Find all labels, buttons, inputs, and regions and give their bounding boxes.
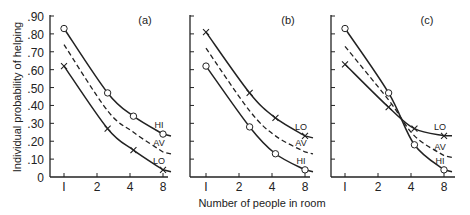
x-tick-label: 4	[269, 180, 276, 194]
chart-figure: Individual probability of helping 0.10.2…	[0, 0, 470, 215]
cross-marker-icon	[342, 61, 348, 67]
series-label-hi: HI	[155, 120, 164, 130]
y-tick-label: .40	[27, 99, 44, 113]
y-axis-label: Individual probability of helping	[11, 22, 23, 172]
circle-marker-icon	[61, 25, 67, 31]
y-tick-label: .50	[27, 82, 44, 96]
circle-marker-icon	[411, 142, 417, 148]
x-tick-label: 8	[302, 180, 309, 194]
x-tick-label: 8	[441, 180, 448, 194]
x-tick-label: 2	[94, 180, 101, 194]
x-axis-label: Number of people in room	[198, 197, 325, 209]
circle-marker-icon	[130, 113, 136, 119]
x-tick-label: 4	[127, 180, 134, 194]
cross-marker-icon	[105, 126, 111, 132]
cross-marker-icon	[386, 104, 392, 110]
series-label-lo: LO	[295, 122, 307, 132]
x-tick-label: I	[62, 180, 65, 194]
circle-marker-icon	[104, 90, 110, 96]
series-label-lo: LO	[153, 156, 165, 166]
chart-panels: I248(a)HIAVLOI248(b)LOAVHII248(c)LOAVHI	[50, 14, 455, 194]
y-tick-label: .70	[27, 46, 44, 60]
y-tick-label: .60	[27, 64, 44, 78]
x-tick-label: I	[343, 180, 346, 194]
panel-c: I248(c)LOAVHI	[331, 14, 455, 194]
series-label-av: AV	[295, 138, 306, 148]
cross-marker-icon	[411, 126, 417, 132]
y-tick-labels: 0.10.20.30.40.50.60.70.80.90	[27, 10, 44, 185]
circle-marker-icon	[302, 167, 308, 173]
cross-marker-icon	[247, 90, 253, 96]
cross-marker-icon	[203, 29, 209, 35]
circle-marker-icon	[203, 63, 209, 69]
circle-marker-icon	[342, 25, 348, 31]
y-tick-label: .80	[27, 28, 44, 42]
circle-marker-icon	[385, 90, 391, 96]
x-tick-label: 2	[375, 180, 382, 194]
panel-b: I248(b)LOAVHI	[190, 14, 313, 194]
cross-marker-icon	[61, 63, 67, 69]
series-label-av: AV	[434, 142, 445, 152]
y-tick-label: .30	[27, 117, 44, 131]
y-tick-label: .20	[27, 135, 44, 149]
cross-marker-icon	[130, 147, 136, 153]
series-label-lo: LO	[434, 122, 446, 132]
x-tick-label: 2	[236, 180, 243, 194]
x-tick-label: 8	[160, 180, 167, 194]
series-label-hi: HI	[436, 156, 445, 166]
y-tick-label: .90	[27, 10, 44, 24]
cross-marker-icon	[272, 115, 278, 121]
circle-marker-icon	[272, 151, 278, 157]
y-tick-label: .10	[27, 153, 44, 167]
y-axis-title: Individual probability of helping	[11, 22, 23, 172]
series-label-hi: HI	[297, 156, 306, 166]
circle-marker-icon	[160, 131, 166, 137]
series-label-av: AV	[153, 138, 164, 148]
circle-marker-icon	[441, 167, 447, 173]
y-tick-label: 0	[37, 171, 44, 185]
circle-marker-icon	[246, 124, 252, 130]
x-tick-label: I	[204, 180, 207, 194]
panel-title: (a)	[138, 14, 151, 26]
panel-title: (c)	[421, 14, 434, 26]
panel-title: (b)	[281, 14, 294, 26]
panel-a: I248(a)HIAVLO	[50, 14, 171, 194]
x-tick-label: 4	[408, 180, 415, 194]
